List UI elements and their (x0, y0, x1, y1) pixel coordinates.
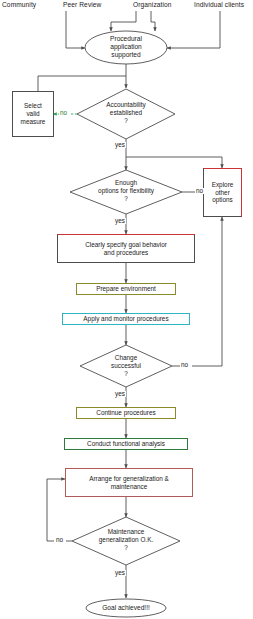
edge-label-change-successful-no: no (180, 362, 189, 368)
change-successful-line-2: successful (80, 362, 172, 370)
edge-label-maintenance-yes: yes (114, 570, 126, 576)
node-arrange-generalization[interactable]: Arrange for generalization & maintenance (65, 468, 193, 497)
node-continue-procedures[interactable]: Continue procedures (76, 407, 176, 419)
source-label-peer-review: Peer Review (63, 2, 101, 9)
edge-label-enough-options-no: no (195, 188, 204, 194)
node-accountability-established: Accountability established ? (76, 101, 176, 125)
enough-options-line-2: options for flexibility (66, 187, 186, 195)
edge-label-maintenance-no: no (55, 537, 64, 543)
node-apply-monitor-procedures[interactable]: Apply and monitor procedures (62, 313, 190, 325)
select-measure-line-1: Select (24, 102, 42, 110)
node-explore-other-options[interactable]: Explore other options (203, 168, 242, 217)
enough-options-line-1: Enough (66, 179, 186, 187)
continue-line-1: Continue procedures (96, 409, 155, 417)
specify-line-2: and procedures (104, 249, 148, 257)
node-procedural-application: Procedural application supported (86, 35, 166, 60)
node-prepare-environment[interactable]: Prepare environment (76, 283, 176, 295)
edge-label-enough-options-yes: yes (114, 218, 126, 224)
select-measure-line-3: measure (21, 118, 46, 126)
node-change-successful: Change successful ? (80, 354, 172, 378)
explore-line-3: options (212, 196, 233, 204)
conduct-line-1: Conduct functional analysis (87, 440, 165, 448)
procedural-line-2: application (86, 43, 166, 51)
change-successful-line-1: Change (80, 354, 172, 362)
arrange-line-1: Arrange for generalization & (89, 475, 169, 483)
procedural-line-3: supported (86, 51, 166, 59)
prepare-line-1: Prepare environment (96, 285, 156, 293)
maintenance-line-1: Maintenance (71, 528, 181, 536)
edge-change-no-to-explore (192, 217, 222, 366)
explore-line-1: Explore (212, 181, 234, 189)
node-maintenance-generalization-ok: Maintenance generalization O.K. ? (71, 528, 181, 552)
apply-line-1: Apply and monitor procedures (83, 315, 168, 323)
explore-line-2: other (215, 189, 230, 197)
node-conduct-functional-analysis[interactable]: Conduct functional analysis (64, 438, 188, 450)
arrange-line-2: maintenance (111, 483, 148, 491)
maintenance-line-3: ? (71, 544, 181, 552)
change-successful-line-3: ? (80, 370, 172, 378)
node-enough-options: Enough options for flexibility ? (66, 179, 186, 203)
node-goal-achieved: Goal achieved!!! (86, 604, 166, 612)
edge-yes-branch-to-explore (126, 157, 222, 168)
accountability-line-3: ? (76, 117, 176, 125)
source-label-organization: Organization (133, 2, 172, 9)
enough-options-line-3: ? (66, 195, 186, 203)
maintenance-line-2: generalization O.K. (71, 536, 181, 544)
procedural-line-1: Procedural (86, 35, 166, 43)
edge-organization-to-oval (151, 11, 155, 31)
edge-label-accountability-no: no (59, 110, 68, 116)
accountability-line-2: established (76, 109, 176, 117)
edge-label-change-successful-yes: yes (114, 391, 126, 397)
node-select-valid-measure[interactable]: Select valid measure (12, 91, 54, 137)
edge-select-measure-feedback (38, 76, 126, 91)
accountability-line-1: Accountability (76, 101, 176, 109)
node-clearly-specify-goal[interactable]: Clearly specify goal behavior and proced… (57, 234, 195, 263)
specify-line-1: Clearly specify goal behavior (85, 241, 167, 249)
source-label-individual-clients: Individual clients (194, 2, 244, 9)
goal-achieved-line-1: Goal achieved!!! (86, 604, 166, 612)
edge-maintenance-no-to-arrange (47, 479, 65, 541)
select-measure-line-2: valid (26, 110, 39, 118)
edge-label-accountability-yes: yes (114, 142, 126, 148)
source-label-community: Community (2, 2, 36, 9)
edge-peer-review-to-oval (111, 11, 136, 31)
